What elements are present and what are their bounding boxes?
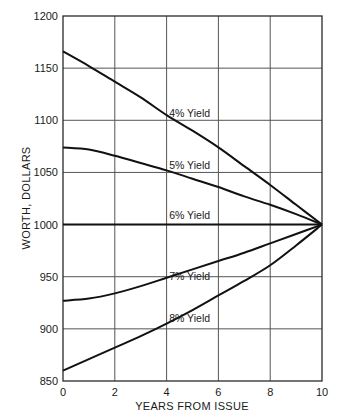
y-tick-label: 900 — [40, 323, 58, 335]
x-tick-label: 8 — [267, 386, 273, 398]
y-tick-label: 850 — [40, 375, 58, 387]
curve-label: 6% Yield — [169, 209, 210, 221]
x-tick-label: 6 — [215, 386, 221, 398]
x-tick-label: 2 — [112, 386, 118, 398]
y-tick-label: 1050 — [34, 166, 58, 178]
y-tick-label: 1000 — [34, 219, 58, 231]
grid-lines — [63, 16, 322, 381]
curve-8-yield — [63, 225, 322, 371]
curve-label: 8% Yield — [169, 312, 210, 324]
y-tick-label: 1100 — [34, 114, 58, 126]
y-tick-label: 1200 — [34, 10, 58, 22]
y-tick-label: 950 — [40, 271, 58, 283]
y-axis-ticks: 85090095010001050110011501200 — [34, 10, 58, 387]
y-axis-label: WORTH, DOLLARS — [20, 146, 32, 249]
curve-label: 4% Yield — [169, 107, 210, 119]
curve-7-yield — [63, 225, 322, 301]
x-axis-label: YEARS FROM ISSUE — [135, 400, 249, 412]
bond-worth-chart: 85090095010001050110011501200 0246810 4%… — [0, 0, 340, 418]
curve-label: 5% Yield — [169, 159, 210, 171]
curve-labels: 4% Yield5% Yield6% Yield7% Yield8% Yield — [169, 107, 210, 323]
plot-frame — [63, 16, 322, 381]
curve-label: 7% Yield — [169, 270, 210, 282]
x-tick-label: 0 — [60, 386, 66, 398]
curve-4-yield — [63, 51, 322, 224]
y-tick-label: 1150 — [34, 62, 58, 74]
x-tick-label: 10 — [316, 386, 328, 398]
x-tick-label: 4 — [164, 386, 170, 398]
x-axis-ticks: 0246810 — [60, 386, 328, 398]
